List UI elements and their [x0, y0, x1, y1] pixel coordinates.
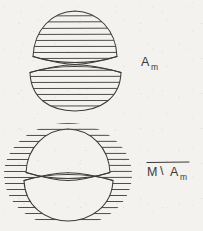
label-lower-figure: M \ A m — [147, 162, 189, 182]
figure-lower-group — [2, 123, 136, 221]
upper-figure-top-lobe-hatching — [20, 16, 130, 59]
label-upper-subscript: m — [151, 62, 158, 72]
label-lower-overline-rule — [147, 162, 189, 163]
label-lower-m: M — [147, 165, 158, 179]
diagram-canvas: A m M \ A m — [0, 0, 203, 231]
upper-figure-bottom-lobe-hatching — [18, 70, 133, 106]
lower-figure-complement-hatching — [2, 123, 136, 219]
upper-figure-top-lobe-outline — [33, 11, 117, 63]
figure-root: A m M \ A m — [0, 0, 203, 231]
label-lower-setminus-operator: \ — [160, 164, 164, 178]
label-lower-subscript: m — [180, 172, 187, 182]
label-lower-a: A — [170, 165, 179, 179]
label-upper-base: A — [141, 55, 150, 69]
figure-upper-group — [18, 11, 133, 111]
lower-figure-pinch-crossing — [24, 173, 113, 181]
label-upper-figure: A m — [141, 55, 158, 72]
